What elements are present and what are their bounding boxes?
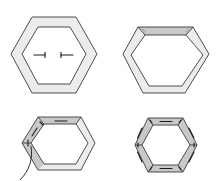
- step-3-hexagon: [20, 117, 95, 180]
- step-2-hexagon: [123, 27, 209, 93]
- step-4-hexagon: [135, 118, 197, 172]
- arrow-left-icon: [61, 53, 73, 58]
- hexagon-steps-diagram: [0, 0, 221, 181]
- step-1-hexagon: [11, 17, 97, 93]
- arrow-right-icon: [34, 53, 45, 58]
